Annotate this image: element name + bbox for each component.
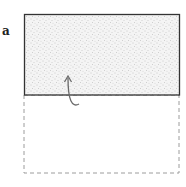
dashed-rectangle xyxy=(24,95,179,173)
stippled-rectangle xyxy=(25,15,180,96)
diagram xyxy=(0,0,186,187)
